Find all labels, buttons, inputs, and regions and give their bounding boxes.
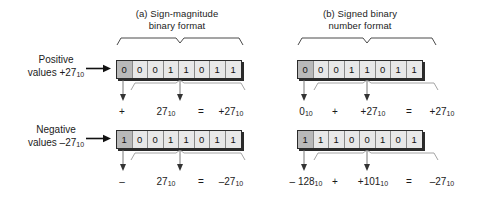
equation-result-value: +27 xyxy=(219,105,236,119)
panel-b-top-brace-icon xyxy=(297,36,437,46)
row-label-negative: Negative values –2710 xyxy=(18,124,94,151)
bit-cell: 0 xyxy=(195,61,211,78)
equation-result-subscript: 10 xyxy=(447,107,455,121)
bit-cell: 1 xyxy=(179,131,195,148)
bit-cell: 1 xyxy=(345,61,361,78)
panel-b-negative-connector-icon xyxy=(295,150,439,172)
bit-cell: 1 xyxy=(226,131,242,148)
equation-panel-b-positive: 010++2710=+2710 xyxy=(288,105,476,119)
row-label-positive-line1: Positive xyxy=(18,54,94,67)
equation-sign-subscript: 10 xyxy=(305,107,313,121)
byte-panel-a-negative: 1 0 0 1 1 0 1 1 xyxy=(116,130,242,149)
equation-magnitude-term: +2710 xyxy=(346,105,400,121)
equation-magnitude-subscript: 10 xyxy=(168,177,176,191)
equation-sign-term: + xyxy=(104,105,140,119)
bit-cell: 1 xyxy=(117,131,133,148)
arrow-right-icon-negative xyxy=(86,134,112,143)
equation-result-value: –27 xyxy=(430,175,447,189)
bit-cell: 1 xyxy=(210,61,226,78)
bit-cell: 1 xyxy=(407,131,423,148)
equation-result-term: +2710 xyxy=(418,105,466,121)
equation-equals-sign: = xyxy=(400,105,418,119)
equation-equals-sign: = xyxy=(192,105,210,119)
equation-panel-a-negative: –2710=–2710 xyxy=(104,175,254,189)
equation-sign-value: – 128 xyxy=(290,175,315,189)
equation-result-value: +27 xyxy=(430,105,447,119)
bit-cell: 0 xyxy=(195,131,211,148)
bit-cell: 0 xyxy=(391,131,407,148)
row-label-negative-subscript: 10 xyxy=(76,141,84,148)
bit-cell: 0 xyxy=(148,61,164,78)
bit-cell: 0 xyxy=(314,61,330,78)
equation-result-value: –27 xyxy=(219,175,236,189)
equation-sign-term: – xyxy=(104,175,140,189)
equation-result-subscript: 10 xyxy=(235,177,243,191)
equation-sign-term: 010 xyxy=(288,105,324,121)
equation-magnitude-term: +10110 xyxy=(346,175,400,191)
equation-sign-subscript: 10 xyxy=(315,177,323,191)
panel-b-positive-connector-icon xyxy=(295,80,439,102)
row-label-negative-line2: values –2710 xyxy=(18,137,94,152)
panel-a-heading: (a) Sign-magnitude binary format xyxy=(112,8,242,31)
equation-panel-a-positive: +2710=+2710 xyxy=(104,105,254,119)
bit-cell: 1 xyxy=(298,131,314,148)
row-label-positive-value: values +27 xyxy=(28,67,77,78)
bit-cell: 0 xyxy=(360,131,376,148)
bit-cell: 0 xyxy=(133,61,149,78)
bit-cell: 1 xyxy=(360,61,376,78)
bit-cell: 0 xyxy=(376,61,392,78)
equation-magnitude-value: 27 xyxy=(157,175,168,189)
panel-b-heading-line2: number format xyxy=(290,20,430,32)
bit-cell: 1 xyxy=(164,131,180,148)
bit-cell: 1 xyxy=(210,131,226,148)
row-label-positive-subscript: 10 xyxy=(76,71,84,78)
equation-plus-sign: + xyxy=(324,175,346,189)
equation-equals-sign: = xyxy=(192,175,210,189)
panel-b-heading: (b) Signed binary number format xyxy=(290,8,430,31)
panel-a-positive-connector-icon xyxy=(114,80,246,102)
byte-panel-b-negative: 1 1 1 0 0 1 0 1 xyxy=(297,130,423,149)
panel-a-negative-connector-icon xyxy=(114,150,246,172)
bit-cell: 0 xyxy=(117,61,133,78)
equation-magnitude-subscript: 10 xyxy=(380,177,388,191)
bit-cell: 1 xyxy=(329,131,345,148)
bit-cell: 1 xyxy=(407,61,423,78)
bit-cell: 0 xyxy=(133,131,149,148)
panel-a-top-brace-icon xyxy=(116,36,244,46)
equation-plus-sign: + xyxy=(324,105,346,119)
row-label-negative-value: values –27 xyxy=(28,137,76,148)
equation-result-term: –2710 xyxy=(210,175,252,191)
bit-cell: 0 xyxy=(298,61,314,78)
equation-magnitude-term: 2710 xyxy=(140,105,192,121)
panel-a-heading-line1: (a) Sign-magnitude xyxy=(112,8,242,20)
bit-cell: 1 xyxy=(376,131,392,148)
bit-cell: 1 xyxy=(391,61,407,78)
equation-result-term: +2710 xyxy=(210,105,252,121)
bit-cell: 1 xyxy=(179,61,195,78)
byte-panel-a-positive: 0 0 0 1 1 0 1 1 xyxy=(116,60,242,79)
bit-cell: 0 xyxy=(148,131,164,148)
panel-a-heading-line2: binary format xyxy=(112,20,242,32)
byte-panel-b-positive: 0 0 0 1 1 0 1 1 xyxy=(297,60,423,79)
equation-panel-b-negative: – 12810++10110=–2710 xyxy=(288,175,476,189)
equation-sign-term: – 12810 xyxy=(288,175,324,191)
equation-magnitude-value: +27 xyxy=(361,105,378,119)
equation-result-term: –2710 xyxy=(418,175,466,191)
row-label-positive: Positive values +2710 xyxy=(18,54,94,81)
row-label-positive-line2: values +2710 xyxy=(18,67,94,82)
equation-magnitude-subscript: 10 xyxy=(168,107,176,121)
bit-cell: 1 xyxy=(226,61,242,78)
bit-cell: 1 xyxy=(314,131,330,148)
equation-magnitude-subscript: 10 xyxy=(378,107,386,121)
bit-cell: 0 xyxy=(345,131,361,148)
equation-magnitude-value: 27 xyxy=(157,105,168,119)
row-label-negative-line1: Negative xyxy=(18,124,94,137)
bit-cell: 1 xyxy=(164,61,180,78)
equation-magnitude-term: 2710 xyxy=(140,175,192,191)
bit-cell: 0 xyxy=(329,61,345,78)
diagram-canvas: (a) Sign-magnitude binary format (b) Sig… xyxy=(0,0,479,206)
panel-b-heading-line1: (b) Signed binary xyxy=(290,8,430,20)
equation-magnitude-value: +101 xyxy=(358,175,381,189)
equation-result-subscript: 10 xyxy=(236,107,244,121)
equation-result-subscript: 10 xyxy=(446,177,454,191)
